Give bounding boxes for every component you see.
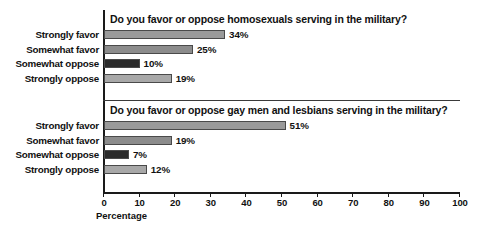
panel-title-1-emphasis: gay men and lesbians bbox=[227, 104, 333, 116]
bar-row: Strongly favor34% bbox=[0, 28, 479, 41]
x-axis-title-text: Percentage bbox=[96, 210, 147, 221]
panel-title-1-suffix: serving in the military? bbox=[333, 104, 447, 116]
bar[interactable] bbox=[104, 45, 193, 54]
x-tick-label-10: 10 bbox=[127, 197, 153, 208]
chart-panel-homosexuals: Do you favor or oppose homosexuals servi… bbox=[0, 10, 479, 100]
bar-value-label: 51% bbox=[290, 119, 309, 132]
bar-row: Somewhat oppose7% bbox=[0, 148, 479, 161]
panel-title-0: Do you favor or oppose homosexuals servi… bbox=[110, 13, 407, 25]
bar-value-label: 7% bbox=[133, 148, 147, 161]
bar[interactable] bbox=[104, 30, 225, 39]
category-label-somewhat-favor: Somewhat favor bbox=[0, 43, 99, 56]
bar[interactable] bbox=[104, 136, 172, 145]
panel-title-1-prefix: Do you favor or oppose bbox=[110, 104, 227, 116]
panel-title-0-emphasis: homosexuals bbox=[227, 13, 292, 25]
bar-value-label: 25% bbox=[197, 43, 216, 56]
bar-value-label: 10% bbox=[144, 57, 163, 70]
x-tick-label-90: 90 bbox=[411, 197, 437, 208]
bar[interactable] bbox=[104, 74, 172, 83]
bar-row: Somewhat favor25% bbox=[0, 43, 479, 56]
panel-title-0-suffix: serving in the military? bbox=[293, 13, 407, 25]
chart-canvas: 0102030405060708090100 Percentage Do you… bbox=[0, 0, 479, 229]
bar-value-label: 34% bbox=[229, 28, 248, 41]
bar[interactable] bbox=[104, 165, 147, 174]
x-axis-title: Percentage bbox=[0, 210, 479, 221]
bar-value-label: 19% bbox=[176, 134, 195, 147]
bar[interactable] bbox=[104, 121, 286, 130]
bar-row: Somewhat oppose10% bbox=[0, 57, 479, 70]
bar-row: Strongly oppose12% bbox=[0, 163, 479, 176]
x-tick-label-0: 0 bbox=[91, 197, 117, 208]
x-tick-label-60: 60 bbox=[305, 197, 331, 208]
category-label-somewhat-oppose: Somewhat oppose bbox=[0, 148, 99, 161]
bar-row: Strongly favor51% bbox=[0, 119, 479, 132]
chart-panel-gay-men-and-lesbians: Do you favor or oppose gay men and lesbi… bbox=[0, 101, 479, 192]
x-tick-label-100: 100 bbox=[447, 197, 473, 208]
bar-row: Somewhat favor19% bbox=[0, 134, 479, 147]
x-tick-label-50: 50 bbox=[269, 197, 295, 208]
bar-row: Strongly oppose19% bbox=[0, 72, 479, 85]
bar-value-label: 19% bbox=[176, 72, 195, 85]
bar-value-label: 12% bbox=[151, 163, 170, 176]
category-label-somewhat-favor: Somewhat favor bbox=[0, 134, 99, 147]
bar[interactable] bbox=[104, 150, 129, 159]
category-label-strongly-oppose: Strongly oppose bbox=[0, 72, 99, 85]
x-tick-label-70: 70 bbox=[340, 197, 366, 208]
x-tick-label-20: 20 bbox=[162, 197, 188, 208]
category-label-strongly-favor: Strongly favor bbox=[0, 28, 99, 41]
x-tick-label-80: 80 bbox=[376, 197, 402, 208]
category-label-strongly-oppose: Strongly oppose bbox=[0, 163, 99, 176]
category-label-somewhat-oppose: Somewhat oppose bbox=[0, 57, 99, 70]
bar[interactable] bbox=[104, 59, 140, 68]
x-tick-label-40: 40 bbox=[233, 197, 259, 208]
x-tick-label-30: 30 bbox=[198, 197, 224, 208]
panel-title-0-prefix: Do you favor or oppose bbox=[110, 13, 227, 25]
panel-title-1: Do you favor or oppose gay men and lesbi… bbox=[110, 104, 448, 116]
category-label-strongly-favor: Strongly favor bbox=[0, 119, 99, 132]
